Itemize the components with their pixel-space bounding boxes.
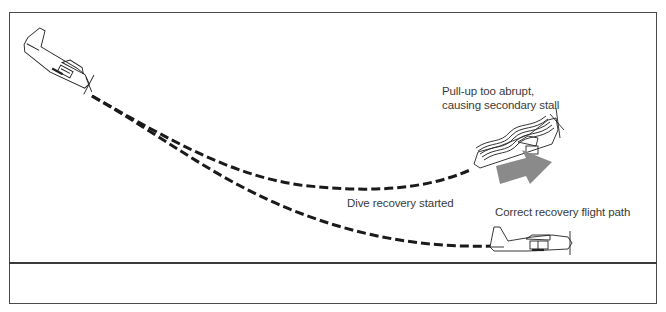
plane-stalled-icon [474, 108, 564, 168]
path-abrupt-pullup [92, 96, 470, 189]
diagram-frame [9, 13, 657, 304]
flight-paths [92, 96, 492, 246]
path-correct-recovery [92, 96, 492, 246]
flight-diagram: Pull-up too abrupt, causing secondary st… [0, 0, 666, 312]
plane-diving-icon [17, 25, 107, 97]
plane-level-icon [490, 227, 572, 255]
label-dive-recovery: Dive recovery started [347, 196, 454, 210]
label-secondary-stall: Pull-up too abrupt, causing secondary st… [442, 84, 559, 112]
label-secondary-stall-line1: Pull-up too abrupt, [442, 84, 559, 98]
label-secondary-stall-line2: causing secondary stall [442, 98, 559, 112]
label-correct-recovery: Correct recovery flight path [495, 205, 630, 219]
